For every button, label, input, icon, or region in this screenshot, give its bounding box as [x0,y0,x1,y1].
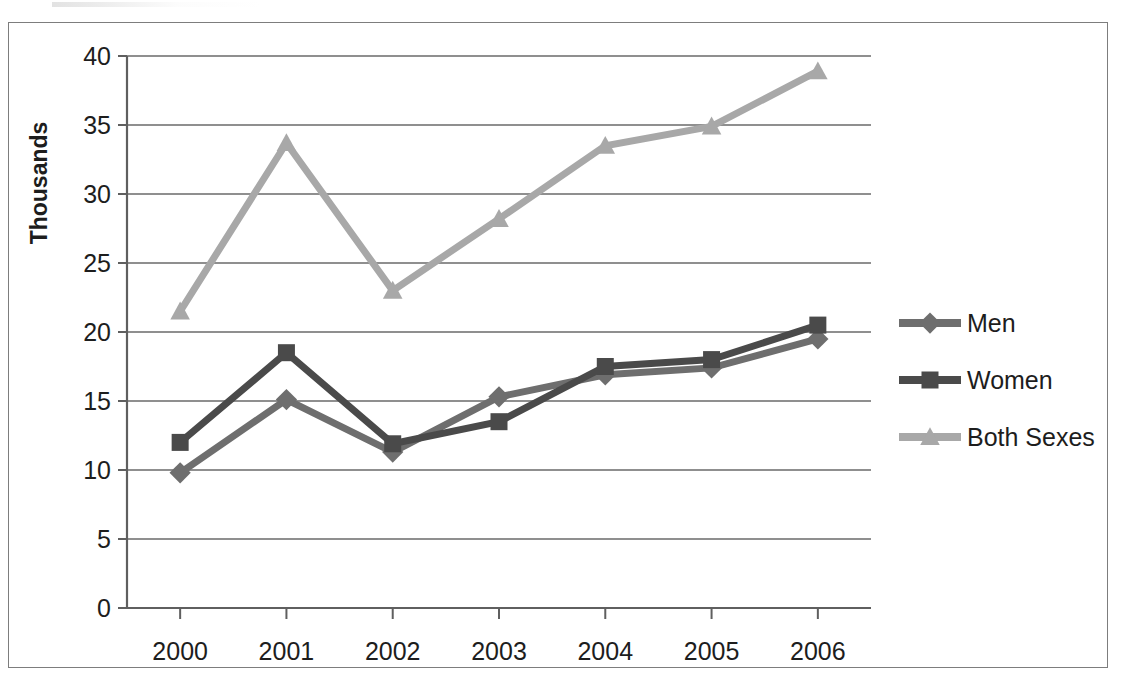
line-chart: 4035302520151050200020012002200320042005… [9,23,1109,669]
legend-marker-diamond [919,312,940,333]
data-point [172,434,189,451]
x-axis-tick-label: 2005 [684,637,740,665]
data-point [491,413,508,430]
chart-plot-area: 4035302520151050200020012002200320042005… [9,23,1109,669]
y-axis-tick-label: 15 [83,387,111,415]
y-axis-tick-label: 20 [83,318,111,346]
y-axis-tick-label: 40 [83,42,111,70]
legend-marker-square [922,372,939,389]
x-axis-tick-label: 2000 [152,637,208,665]
legend-label-both-sexes: Both Sexes [967,423,1095,451]
data-point [809,317,826,334]
data-point [703,351,720,368]
x-axis-tick-label: 2003 [471,637,527,665]
y-axis-tick-label: 35 [83,111,111,139]
legend: MenWomenBoth Sexes [899,309,1095,451]
y-axis-tick-label: 30 [83,180,111,208]
data-point [384,435,401,452]
x-axis-tick-label: 2002 [365,637,421,665]
y-axis-title: Thousands [26,122,52,245]
chart-frame: 4035302520151050200020012002200320042005… [8,22,1108,668]
data-point [278,344,295,361]
data-point [808,61,828,79]
x-axis-tick-label: 2001 [259,637,315,665]
series-line [180,71,818,311]
data-point [597,358,614,375]
series-women [172,317,827,453]
y-axis-tick-label: 25 [83,249,111,277]
x-axis-tick-label: 2006 [790,637,846,665]
legend-label-men: Men [967,309,1016,337]
y-axis-tick-label: 5 [97,525,111,553]
data-point [277,133,297,151]
series-both-sexes [170,61,827,319]
y-axis-tick-label: 10 [83,456,111,484]
x-axis-tick-label: 2004 [577,637,633,665]
y-axis-tick-label: 0 [97,594,111,622]
scan-artifact [52,2,262,7]
legend-label-women: Women [967,366,1053,394]
